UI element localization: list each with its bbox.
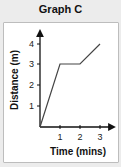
chart-plot: 1 2 3 1 2 3 4 Time (mins) Distance (m): [0, 0, 121, 167]
data-line: [40, 44, 100, 127]
x-tick-label: 1: [57, 132, 62, 142]
y-tick-label: 1: [29, 101, 34, 111]
y-tick-label: 2: [29, 80, 34, 90]
y-tick-label: 3: [29, 59, 34, 69]
y-tick-label: 4: [29, 39, 34, 49]
x-tick-label: 3: [97, 132, 102, 142]
x-axis-label: Time (mins): [50, 146, 106, 157]
y-axis-label: Distance (m): [9, 50, 20, 110]
x-tick-label: 2: [77, 132, 82, 142]
